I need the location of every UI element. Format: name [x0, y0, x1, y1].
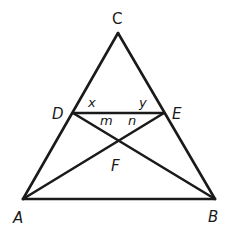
angle-y: y [138, 95, 147, 110]
label-b: B [208, 208, 218, 226]
angle-m: m [100, 113, 113, 128]
angle-labels: x y m n [87, 95, 147, 128]
angle-n: n [128, 113, 136, 128]
triangle-diagram: C D E A B F x y m n [0, 0, 233, 237]
label-e: E [172, 105, 182, 123]
label-f: F [111, 157, 120, 175]
label-a: A [12, 209, 23, 227]
angle-x: x [87, 95, 96, 110]
point-labels: C D E A B F [12, 10, 218, 227]
label-d: D [52, 105, 64, 123]
label-c: C [112, 10, 122, 28]
